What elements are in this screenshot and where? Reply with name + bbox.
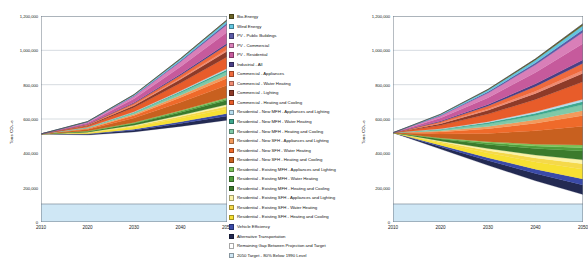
y-axis-tick-label: 200,000 bbox=[1, 185, 38, 190]
legend-swatch-icon bbox=[229, 224, 234, 229]
legend-item[interactable]: Residential - New SFH - Appliances and L… bbox=[229, 136, 353, 146]
legend-item-label: Residential - Existing MFH - Appliances … bbox=[237, 165, 336, 175]
legend-item[interactable]: Residential - New MFH - Heating and Cool… bbox=[229, 127, 353, 137]
legend-swatch-icon bbox=[229, 81, 234, 86]
legend-swatch-icon bbox=[229, 24, 234, 29]
legend-swatch-icon bbox=[229, 71, 234, 76]
legend-item-label: Commercial - Heating and Cooling bbox=[237, 98, 302, 108]
legend-item-label: Residential - Existing SFH - Heating and… bbox=[237, 212, 329, 222]
y-axis-tick-label: 600,000 bbox=[353, 117, 390, 122]
legend-item-label: PV - Public Buildings bbox=[237, 31, 276, 41]
legend-item-label: Residential - New MFH - Water Heating bbox=[237, 117, 312, 127]
y-axis-ticks-right: 0200,000400,000600,000800,0001,000,0001,… bbox=[352, 0, 392, 251]
x-axis-tick-label: 2040 bbox=[175, 225, 185, 230]
legend-item[interactable]: Wind Energy bbox=[229, 22, 353, 32]
legend-item[interactable]: Residential - New SFH - Water Heating bbox=[229, 146, 353, 156]
legend-swatch-icon bbox=[229, 100, 234, 105]
chart-left: Tons CO₂-e 0200,000400,000600,000800,000… bbox=[0, 0, 232, 251]
legend-item[interactable]: Alternative Transportation bbox=[229, 232, 353, 242]
legend-item-label: Residential - New SFH - Water Heating bbox=[237, 146, 311, 156]
legend-item-label: PV - Residential bbox=[237, 50, 268, 60]
legend-item[interactable]: Remaining Gap Between Projection and Tar… bbox=[229, 241, 353, 251]
legend-item-label: Residential - New MFH - Appliances and L… bbox=[237, 107, 329, 117]
y-axis-tick-label: 1,000,000 bbox=[353, 48, 390, 53]
legend-item[interactable]: Residential - Existing MFH - Appliances … bbox=[229, 165, 353, 175]
legend-item-label: Remaining Gap Between Projection and Tar… bbox=[237, 241, 326, 251]
legend-item[interactable]: PV - Public Buildings bbox=[229, 31, 353, 41]
legend-item[interactable]: Residential - New MFH - Appliances and L… bbox=[229, 107, 353, 117]
legend-swatch-icon bbox=[229, 243, 234, 248]
legend-swatch-icon bbox=[229, 110, 234, 115]
legend-item[interactable]: PV - Residential bbox=[229, 50, 353, 60]
legend-swatch-icon bbox=[229, 43, 234, 48]
legend-swatch-icon bbox=[229, 138, 234, 143]
y-axis-tick-label: 800,000 bbox=[353, 82, 390, 87]
legend-item-label: Commercial - Appliances bbox=[237, 69, 284, 79]
legend-item[interactable]: Residential - Existing SFH - Appliances … bbox=[229, 193, 353, 203]
legend-swatch-icon bbox=[229, 253, 234, 258]
legend-swatch-icon bbox=[229, 148, 234, 153]
x-axis-tick-label: 2030 bbox=[129, 225, 139, 230]
legend-item[interactable]: Commercial - Water Heating bbox=[229, 79, 353, 89]
legend-swatch-icon bbox=[229, 186, 234, 191]
legend-item-label: PV - Commercial bbox=[237, 41, 269, 51]
legend-swatch-icon bbox=[229, 234, 234, 239]
legend-item[interactable]: Residential - New SFH - Heating and Cool… bbox=[229, 155, 353, 165]
legend-swatch-icon bbox=[229, 62, 234, 67]
chart-legend: Bio-EnergyWind EnergyPV - Public Buildin… bbox=[229, 12, 353, 260]
y-axis-tick-label: 0 bbox=[1, 220, 38, 225]
legend-item-label: Residential - Existing MFH - Water Heati… bbox=[237, 174, 318, 184]
legend-item-label: Residential - Existing SFH - Appliances … bbox=[237, 193, 335, 203]
legend-item[interactable]: Commercial - Heating and Cooling bbox=[229, 98, 353, 108]
legend-swatch-icon bbox=[229, 157, 234, 162]
legend-swatch-icon bbox=[229, 176, 234, 181]
legend-item[interactable]: PV - Commercial bbox=[229, 41, 353, 51]
legend-item-label: Residential - New SFH - Heating and Cool… bbox=[237, 155, 322, 165]
y-axis-tick-label: 1,200,000 bbox=[1, 14, 38, 19]
x-axis-tick-label: 2010 bbox=[388, 225, 398, 230]
x-axis-ticks-left: 20102020203020402050 bbox=[41, 225, 227, 235]
legend-item[interactable]: Industrial - All bbox=[229, 60, 353, 70]
legend-item[interactable]: Residential - Existing SFH - Heating and… bbox=[229, 212, 353, 222]
x-axis-tick-label: 2040 bbox=[530, 225, 540, 230]
legend-item-label: Residential - New MFH - Heating and Cool… bbox=[237, 127, 323, 137]
legend-swatch-icon bbox=[229, 215, 234, 220]
y-axis-tick-label: 0 bbox=[353, 220, 390, 225]
legend-item[interactable]: Commercial - Lighting bbox=[229, 88, 353, 98]
chart-right: Tons CO₂-e 0200,000400,000600,000800,000… bbox=[352, 0, 588, 251]
legend-item-label: 2050 Target - 80% Below 1990 Level bbox=[237, 251, 306, 260]
legend-item-label: Wind Energy bbox=[237, 22, 261, 32]
area-series bbox=[41, 204, 227, 222]
y-axis-tick-label: 400,000 bbox=[353, 151, 390, 156]
legend-item[interactable]: Bio-Energy bbox=[229, 12, 353, 22]
legend-item-label: Commercial - Water Heating bbox=[237, 79, 291, 89]
legend-swatch-icon bbox=[229, 167, 234, 172]
y-axis-tick-label: 800,000 bbox=[1, 82, 38, 87]
y-axis-tick-label: 200,000 bbox=[353, 185, 390, 190]
x-axis-ticks-right: 20102020203020402050 bbox=[393, 225, 583, 235]
legend-swatch-icon bbox=[229, 90, 234, 95]
legend-item[interactable]: Residential - Existing MFH - Heating and… bbox=[229, 184, 353, 194]
y-axis-tick-label: 400,000 bbox=[1, 151, 38, 156]
legend-item-label: Residential - Existing SFH - Water Heati… bbox=[237, 203, 317, 213]
legend-item-label: Vehicle Efficiency bbox=[237, 222, 270, 232]
legend-item[interactable]: Commercial - Appliances bbox=[229, 69, 353, 79]
legend-item[interactable]: 2050 Target - 80% Below 1990 Level bbox=[229, 251, 353, 260]
legend-item[interactable]: Residential - Existing MFH - Water Heati… bbox=[229, 174, 353, 184]
legend-swatch-icon bbox=[229, 33, 234, 38]
area-series bbox=[393, 204, 583, 222]
legend-swatch-icon bbox=[229, 205, 234, 210]
x-axis-tick-label: 2020 bbox=[435, 225, 445, 230]
legend-item[interactable]: Residential - Existing SFH - Water Heati… bbox=[229, 203, 353, 213]
legend-swatch-icon bbox=[229, 195, 234, 200]
legend-item[interactable]: Residential - New MFH - Water Heating bbox=[229, 117, 353, 127]
legend-swatch-icon bbox=[229, 14, 234, 19]
legend-item-label: Alternative Transportation bbox=[237, 232, 285, 242]
legend-swatch-icon bbox=[229, 119, 234, 124]
x-axis-tick-label: 2010 bbox=[36, 225, 46, 230]
legend-item[interactable]: Vehicle Efficiency bbox=[229, 222, 353, 232]
plot-area-right bbox=[393, 16, 583, 222]
legend-item-label: Residential - New SFH - Appliances and L… bbox=[237, 136, 329, 146]
legend-item-label: Commercial - Lighting bbox=[237, 88, 278, 98]
